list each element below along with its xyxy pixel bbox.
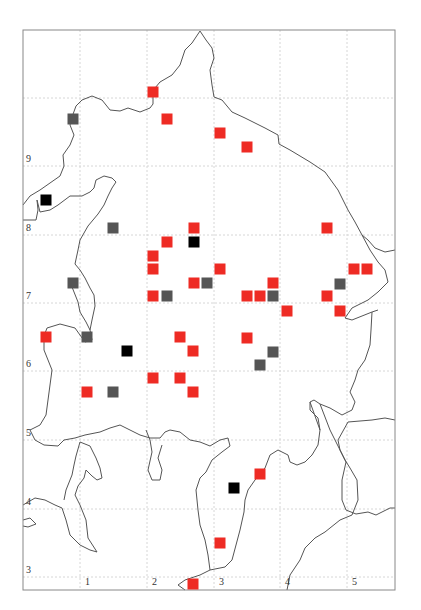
- gray-square-marker: [268, 291, 279, 302]
- y-tick-label: 8: [26, 222, 31, 233]
- red-square-marker: [148, 87, 159, 98]
- red-square-marker: [148, 264, 159, 275]
- red-square-marker: [242, 291, 253, 302]
- red-square-marker: [82, 387, 93, 398]
- red-square-marker: [148, 291, 159, 302]
- gray-square-marker: [68, 278, 79, 289]
- red-square-marker: [188, 346, 199, 357]
- red-square-marker: [268, 278, 279, 289]
- red-square-marker: [255, 469, 266, 480]
- black-square-marker: [229, 483, 240, 494]
- red-square-marker: [148, 373, 159, 384]
- x-tick-label: 3: [219, 576, 224, 587]
- red-square-marker: [188, 579, 199, 590]
- gray-square-marker: [162, 291, 173, 302]
- red-square-marker: [322, 291, 333, 302]
- red-square-marker: [189, 223, 200, 234]
- gray-square-marker: [82, 332, 93, 343]
- red-square-marker: [362, 264, 373, 275]
- gray-square-marker: [202, 278, 213, 289]
- y-tick-label: 5: [26, 427, 31, 438]
- red-square-marker: [148, 251, 159, 262]
- red-square-marker: [242, 333, 253, 344]
- y-tick-label: 6: [26, 358, 31, 369]
- red-square-marker: [242, 142, 253, 153]
- occurrence-markers: [41, 87, 373, 590]
- gray-square-marker: [335, 279, 346, 290]
- black-square-marker: [189, 237, 200, 248]
- gray-square-marker: [68, 114, 79, 125]
- x-tick-label: 4: [285, 576, 290, 587]
- red-square-marker: [255, 291, 266, 302]
- x-tick-label: 5: [352, 576, 357, 587]
- red-square-marker: [215, 538, 226, 549]
- gray-square-marker: [108, 387, 119, 398]
- y-tick-label: 3: [26, 564, 31, 575]
- axis-tick-labels: 123459876543: [26, 153, 357, 587]
- gray-square-marker: [268, 347, 279, 358]
- red-square-marker: [162, 114, 173, 125]
- red-square-marker: [282, 306, 293, 317]
- gray-square-marker: [108, 223, 119, 234]
- red-square-marker: [188, 387, 199, 398]
- y-tick-label: 9: [26, 153, 31, 164]
- red-square-marker: [215, 264, 226, 275]
- y-tick-label: 7: [26, 290, 31, 301]
- gray-square-marker: [255, 360, 266, 371]
- x-tick-label: 2: [152, 576, 157, 587]
- distribution-map: 123459876543: [0, 0, 421, 610]
- red-square-marker: [162, 237, 173, 248]
- red-square-marker: [175, 332, 186, 343]
- y-tick-label: 4: [26, 496, 31, 507]
- red-square-marker: [335, 306, 346, 317]
- red-square-marker: [175, 373, 186, 384]
- x-tick-label: 1: [85, 576, 90, 587]
- red-square-marker: [215, 128, 226, 139]
- red-square-marker: [41, 332, 52, 343]
- red-square-marker: [189, 278, 200, 289]
- red-square-marker: [322, 223, 333, 234]
- red-square-marker: [349, 264, 360, 275]
- black-square-marker: [122, 346, 133, 357]
- black-square-marker: [41, 195, 52, 206]
